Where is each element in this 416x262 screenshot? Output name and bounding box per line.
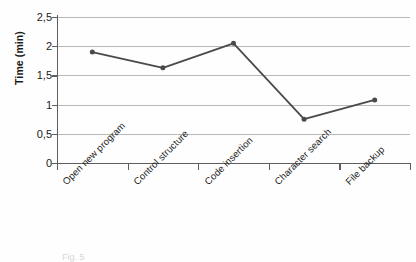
- y-axis-tick-mark: [52, 105, 58, 106]
- x-axis-tick-mark: [128, 163, 129, 170]
- data-point-marker: [231, 41, 236, 46]
- x-axis-tick-mark: [410, 163, 411, 170]
- chart-figure: Time (min) 00,511,522,5 Open new program…: [0, 0, 416, 262]
- y-axis-tick-mark: [52, 134, 58, 135]
- x-axis-tick-mark: [57, 163, 58, 170]
- x-axis-tick-mark: [339, 163, 340, 170]
- x-axis-tick-mark: [269, 163, 270, 170]
- y-axis-tick-mark: [52, 46, 58, 47]
- data-point-marker: [302, 117, 307, 122]
- data-point-marker: [160, 65, 165, 70]
- data-point-marker: [372, 97, 377, 102]
- series-polyline: [92, 43, 374, 119]
- figure-caption: Fig. 5: [62, 252, 85, 262]
- x-axis-tick-mark: [198, 163, 199, 170]
- series-line-chart: [0, 0, 416, 262]
- y-axis-tick-mark: [52, 75, 58, 76]
- data-point-marker: [90, 50, 95, 55]
- y-axis-tick-mark: [52, 17, 58, 18]
